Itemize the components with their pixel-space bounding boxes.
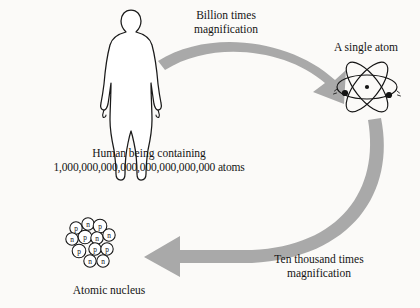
nucleon-label: n [70, 235, 74, 244]
nucleon-label: p [77, 247, 81, 256]
label-billion-line2: magnification [194, 23, 258, 35]
label-ten-thousand-line1: Ten thousand times [274, 253, 363, 265]
label-billion-magnification: Billion times magnification [168, 8, 284, 36]
atomic-nucleus-cluster: pnpnpnnpppnn [66, 218, 115, 267]
nucleon-label: n [101, 257, 105, 266]
atom-nucleus-dot [365, 85, 369, 89]
nucleon-label: p [98, 222, 102, 231]
nucleon-label: n [86, 220, 90, 229]
label-human-being: Human being containing [20, 146, 278, 160]
atom-electron-left [342, 90, 348, 96]
nucleon-label: p [74, 224, 78, 233]
magnification-scale-figure: pnpnpnnpppnn Billion times magnification… [0, 0, 420, 308]
label-human-atom-count: 1,000,000,000,000,000,000,000,000 atoms [6, 160, 292, 174]
nucleon-label: p [105, 245, 109, 254]
atom-electron-right [386, 92, 392, 98]
nucleon-label: p [93, 245, 97, 254]
label-billion-line1: Billion times [196, 9, 256, 21]
nucleon-label: p [83, 233, 87, 242]
nucleon-label: n [107, 231, 111, 240]
label-ten-thousand-magnification: Ten thousand times magnification [244, 252, 394, 280]
label-single-atom: A single atom [316, 40, 416, 54]
label-ten-thousand-line2: magnification [287, 267, 351, 279]
nucleon-label: n [88, 257, 92, 266]
nucleon-label: n [95, 234, 99, 243]
label-atomic-nucleus: Atomic nucleus [48, 283, 170, 297]
